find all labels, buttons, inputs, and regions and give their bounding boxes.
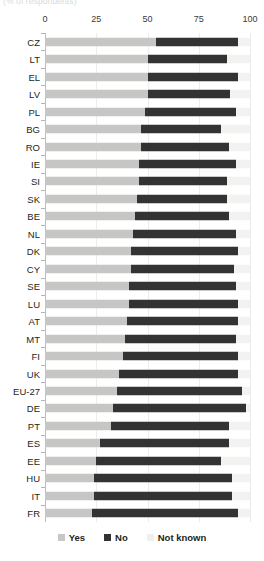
- bar-segment-yes: [45, 194, 137, 203]
- bar-row: [45, 417, 250, 434]
- bar-row: [45, 190, 250, 207]
- bar-segment-nk: [232, 474, 250, 483]
- stacked-bar: [45, 194, 250, 203]
- bar-segment-no: [141, 125, 221, 134]
- stacked-bar: [45, 387, 250, 396]
- stacked-bar: [45, 282, 250, 291]
- category-label: SE: [27, 281, 40, 292]
- stacked-bar: [45, 125, 250, 134]
- bar-segment-nk: [227, 194, 250, 203]
- bar-segment-yes: [45, 317, 127, 326]
- bar-segment-yes: [45, 421, 111, 430]
- stacked-bar: [45, 37, 250, 46]
- bar-segment-no: [139, 177, 227, 186]
- bar-segment-yes: [45, 72, 148, 81]
- bar-segment-no: [96, 456, 221, 465]
- category-tickmark: [41, 138, 45, 139]
- category-label: EU-27: [13, 386, 40, 397]
- bar-segment-no: [141, 142, 229, 151]
- legend-item-not_known[interactable]: Not known: [147, 532, 207, 543]
- category-label: SK: [27, 193, 40, 204]
- bar-segment-nk: [236, 229, 250, 238]
- bar-row: [45, 68, 250, 85]
- category-label: LU: [28, 298, 40, 309]
- bar-segment-no: [129, 299, 238, 308]
- category-label: LV: [29, 89, 40, 100]
- bar-segment-no: [92, 509, 238, 518]
- x-tick-label: 25: [91, 14, 101, 24]
- bar-row: [45, 400, 250, 417]
- bar-row: [45, 278, 250, 295]
- gridline: [250, 33, 251, 522]
- bar-segment-yes: [45, 90, 148, 99]
- legend-label: Not known: [158, 532, 207, 543]
- bar-segment-nk: [221, 125, 250, 134]
- bar-segment-no: [148, 55, 228, 64]
- category-tickmark: [41, 120, 45, 121]
- stacked-bar: [45, 247, 250, 256]
- category-label: BG: [26, 124, 40, 135]
- category-tickmark: [41, 417, 45, 418]
- bar-segment-nk: [236, 107, 250, 116]
- x-tick-label: 50: [142, 14, 152, 24]
- bar-segment-yes: [45, 282, 129, 291]
- bar-segment-nk: [238, 352, 250, 361]
- stacked-bar-chart: (% of respondents) 0255075100 CZLTELLVPL…: [0, 0, 264, 561]
- bar-row: [45, 138, 250, 155]
- category-label: SI: [31, 176, 40, 187]
- category-tickmark: [41, 382, 45, 383]
- bar-segment-no: [125, 334, 236, 343]
- bar-row: [45, 260, 250, 277]
- bar-segment-no: [133, 229, 236, 238]
- bar-segment-yes: [45, 299, 129, 308]
- bar-row: [45, 505, 250, 522]
- bar-segment-yes: [45, 404, 113, 413]
- category-tickmark: [41, 330, 45, 331]
- category-label: IE: [31, 158, 40, 169]
- bar-segment-nk: [227, 55, 250, 64]
- stacked-bar: [45, 334, 250, 343]
- category-label: RO: [26, 141, 40, 152]
- bar-segment-no: [111, 421, 230, 430]
- bar-row: [45, 50, 250, 67]
- bar-segment-no: [94, 491, 231, 500]
- stacked-bar: [45, 421, 250, 430]
- category-tickmark: [41, 470, 45, 471]
- bar-segment-yes: [45, 212, 135, 221]
- bar-row: [45, 365, 250, 382]
- bar-segment-no: [131, 247, 238, 256]
- legend-item-no[interactable]: No: [104, 532, 128, 543]
- stacked-bar: [45, 352, 250, 361]
- bar-segment-nk: [221, 456, 250, 465]
- bar-segment-no: [117, 387, 242, 396]
- category-tickmark: [41, 260, 45, 261]
- stacked-bar: [45, 299, 250, 308]
- bar-segment-nk: [236, 159, 250, 168]
- category-tickmark: [41, 312, 45, 313]
- category-tickmark: [41, 365, 45, 366]
- stacked-bar: [45, 159, 250, 168]
- category-tickmark: [41, 452, 45, 453]
- bar-row: [45, 295, 250, 312]
- bar-segment-nk: [238, 509, 250, 518]
- bar-row: [45, 347, 250, 364]
- stacked-bar: [45, 509, 250, 518]
- bar-segment-yes: [45, 142, 141, 151]
- chart-subtitle: (% of respondents): [3, 0, 77, 6]
- stacked-bar: [45, 491, 250, 500]
- bar-segment-yes: [45, 229, 133, 238]
- stacked-bar: [45, 474, 250, 483]
- bar-segment-yes: [45, 352, 123, 361]
- stacked-bar: [45, 404, 250, 413]
- bar-segment-no: [119, 369, 238, 378]
- category-tickmark: [41, 208, 45, 209]
- bar-row: [45, 452, 250, 469]
- bar-segment-no: [100, 439, 229, 448]
- bar-row: [45, 435, 250, 452]
- legend-item-yes[interactable]: Yes: [58, 532, 85, 543]
- bar-segment-yes: [45, 177, 139, 186]
- category-label: PL: [28, 106, 40, 117]
- category-label: FR: [27, 508, 40, 519]
- category-label: EE: [27, 455, 40, 466]
- bar-row: [45, 155, 250, 172]
